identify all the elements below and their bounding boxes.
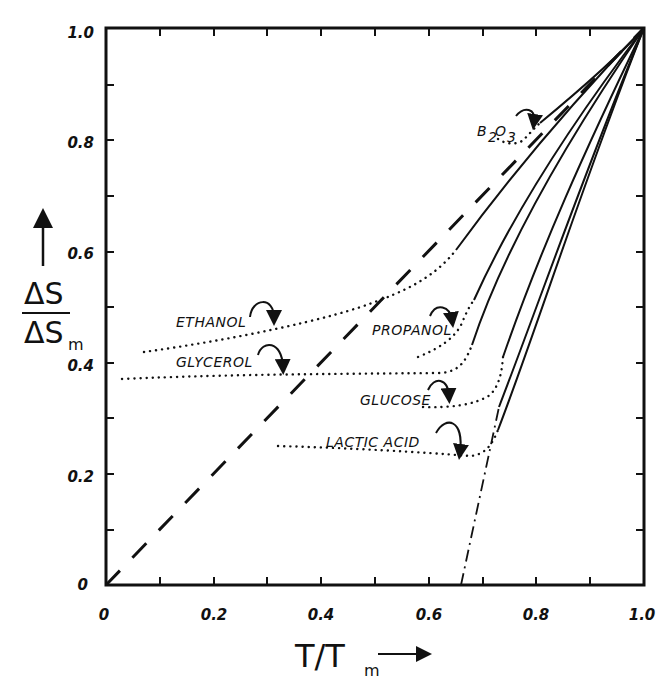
x-tick-0.6: 0.6 [416,606,443,624]
label-glucose: GLUCOSE [360,392,431,408]
glycerol-pointer-arrow-icon [258,345,283,367]
y-tick-0.2: 0.2 [67,468,94,486]
label-b2o3: B 2 O 3 [477,123,516,145]
svg-text:O: O [495,123,507,139]
y-tick-0.6: 0.6 [67,245,94,263]
glycerol-glass-curve [122,345,472,379]
liquid-solid-curves [456,28,644,430]
x-axis-title: T/T m [294,637,424,680]
y-tick-labels: 1.0 0.8 0.6 0.4 0.2 0 [67,24,94,594]
y-title-numerator: ΔS [24,276,64,311]
x-tick-0.8: 0.8 [523,606,550,624]
label-lactic-acid: LACTIC ACID [326,434,420,450]
b2o3-pointer-arrow-icon [516,110,534,122]
x-title-main: T/T [294,637,345,675]
extrapolation-dash-dot-line [461,407,499,585]
svg-text:B: B [477,123,487,139]
x-tick-0: 0 [99,606,109,624]
x-tick-1.0: 1.0 [629,606,656,624]
x-tick-labels: 0 0.2 0.4 0.6 0.8 1.0 [99,606,656,624]
y-axis-title: ΔS ΔS m [22,218,84,354]
x-tick-0.2: 0.2 [201,606,228,624]
b2o3-liquid-curve [540,28,644,123]
y-tick-1.0: 1.0 [67,24,94,42]
y-title-subscript: m [68,335,84,354]
propanol-pointer-arrow-icon [430,307,452,320]
label-glycerol: GLYCEROL [176,354,253,370]
diagonal-dashed-line [106,28,644,585]
glycerol-liquid-curve [472,28,644,345]
ethanol-liquid-curve [456,28,644,250]
lactic-acid-pointer-arrow-icon [436,423,461,452]
glass-dotted-curves [122,123,540,456]
glucose-pointer-arrow-icon [428,381,449,396]
x-title-subscript: m [364,661,380,680]
x-tick-0.4: 0.4 [308,606,335,624]
glass-entropy-chart: 1.0 0.8 0.6 0.4 0.2 0 0 0.2 0.4 0.6 0.8 … [0,0,672,690]
lactic-acid-liquid-curve [498,28,644,430]
label-propanol: PROPANOL [372,322,452,338]
y-tick-0.8: 0.8 [67,134,94,152]
ethanol-pointer-arrow-icon [250,302,274,318]
label-ethanol: ETHANOL [176,314,246,330]
glucose-liquid-curve [503,28,644,357]
y-tick-0: 0 [78,576,88,594]
curve-labels: ETHANOL GLYCEROL PROPANOL GLUCOSE LACTIC… [176,123,516,450]
y-title-denominator: ΔS [24,315,64,350]
y-tick-0.4: 0.4 [67,357,94,375]
svg-text:3: 3 [507,129,516,145]
